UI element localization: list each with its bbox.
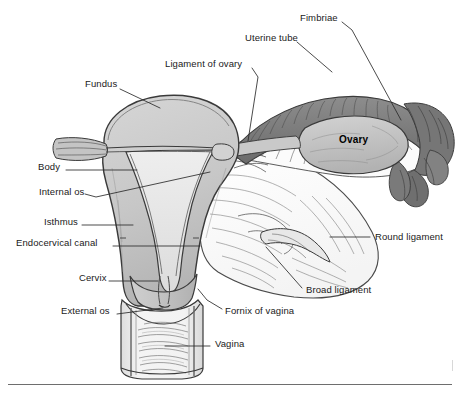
label-ligament-of-ovary: Ligament of ovary — [165, 58, 242, 69]
label-body: Body — [38, 161, 60, 172]
label-fimbriae: Fimbriae — [300, 12, 338, 23]
edge-artifact — [452, 360, 453, 371]
label-round-ligament: Round ligament — [375, 231, 443, 242]
label-ovary: Ovary — [339, 134, 368, 145]
label-broad-ligament: Broad ligament — [306, 284, 371, 295]
label-internal-os: Internal os — [39, 186, 84, 197]
label-uterine-tube: Uterine tube — [245, 32, 298, 43]
leader-uterine-tube — [297, 42, 332, 72]
label-fundus: Fundus — [85, 78, 117, 89]
label-vagina: Vagina — [215, 338, 244, 349]
anatomical-figure: Fundus Ligament of ovary Uterine tube Fi… — [0, 0, 460, 399]
label-endocervical-canal: Endocervical canal — [16, 237, 98, 248]
footer-divider — [8, 384, 452, 385]
label-fornix-of-vagina: Fornix of vagina — [225, 305, 294, 316]
label-external-os: External os — [61, 305, 110, 316]
label-isthmus: Isthmus — [44, 216, 78, 227]
label-cervix: Cervix — [79, 272, 107, 283]
